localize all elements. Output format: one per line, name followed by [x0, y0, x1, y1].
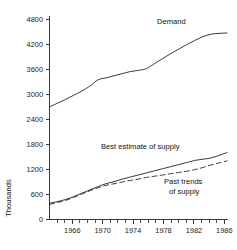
annotation-best-estimate-supply: Best estimate of supply — [101, 142, 180, 151]
x-tick-label: 1966 — [64, 226, 80, 235]
x-tick-label: 1982 — [186, 226, 202, 235]
line-chart-plot: Thousands 4800 4200 3600 3000 2400 1800 … — [0, 0, 237, 250]
y-tick-label: 4800 — [27, 15, 43, 24]
x-tick-label: 1974 — [125, 226, 141, 235]
x-axis-minor-ticks — [57, 220, 217, 224]
x-axis-tick-labels: 1966 1970 1974 1978 1982 1986 — [64, 226, 232, 235]
x-tick-label: 1986 — [216, 226, 232, 235]
y-tick-label: 0 — [39, 215, 43, 224]
y-tick-label: 1200 — [27, 165, 43, 174]
annotation-past-trends-line2: of supply — [169, 187, 200, 196]
y-tick-label: 600 — [31, 190, 43, 199]
y-tick-label: 2400 — [27, 115, 43, 124]
y-tick-label: 3600 — [27, 65, 43, 74]
x-tick-label: 1978 — [155, 226, 171, 235]
annotation-demand: Demand — [157, 17, 186, 26]
x-tick-label: 1970 — [94, 226, 110, 235]
y-axis-ticks — [46, 20, 50, 219]
series-line-demand — [50, 33, 228, 107]
y-axis-title: Thousands — [4, 179, 13, 217]
y-axis-tick-labels: 4800 4200 3600 3000 2400 1800 1200 600 0 — [27, 15, 43, 223]
y-tick-label: 4200 — [27, 40, 43, 49]
chart-container: Thousands 4800 4200 3600 3000 2400 1800 … — [0, 0, 237, 250]
y-tick-label: 1800 — [27, 140, 43, 149]
y-tick-label: 3000 — [27, 90, 43, 99]
annotation-past-trends-line1: Past trends — [164, 177, 203, 186]
